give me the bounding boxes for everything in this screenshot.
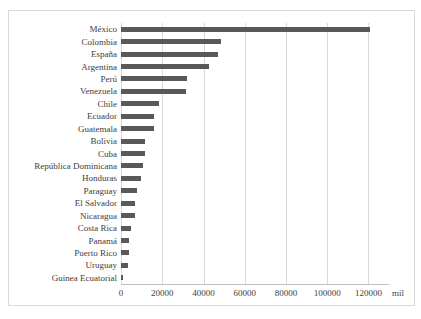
bar — [121, 213, 135, 218]
category-label: España — [9, 48, 117, 60]
axis-unit-label: mil — [392, 288, 404, 298]
category-label: El Salvador — [9, 197, 117, 209]
category-label: Puerto Rico — [9, 247, 117, 259]
bar — [121, 89, 186, 94]
category-label: Panamá — [9, 235, 117, 247]
bar — [121, 188, 137, 193]
category-label: Guinea Ecuatorial — [9, 272, 117, 284]
category-label: Venezuela — [9, 85, 117, 97]
bar — [121, 275, 123, 280]
bar — [121, 52, 218, 57]
category-label: República Dominicana — [9, 160, 117, 172]
bar — [121, 201, 135, 206]
bar — [121, 250, 129, 255]
bar — [121, 76, 187, 81]
category-label: Paraguay — [9, 185, 117, 197]
category-label: Cuba — [9, 148, 117, 160]
bar — [121, 139, 145, 144]
bar — [121, 263, 128, 268]
category-label: Chile — [9, 98, 117, 110]
gridline — [286, 23, 287, 284]
bar — [121, 238, 129, 243]
gridline — [245, 23, 246, 284]
gridline — [162, 23, 163, 284]
bar — [121, 163, 143, 168]
category-label: Uruguay — [9, 259, 117, 271]
gridline — [327, 23, 328, 284]
category-label: México — [9, 23, 117, 35]
category-label: Argentina — [9, 61, 117, 73]
bar — [121, 27, 370, 32]
bar — [121, 114, 154, 119]
bar — [121, 39, 221, 44]
category-label: Costa Rica — [9, 222, 117, 234]
bar — [121, 126, 154, 131]
category-label: Ecuador — [9, 110, 117, 122]
category-label: Bolivia — [9, 135, 117, 147]
bar — [121, 151, 145, 156]
x-tick-label: 120000 — [338, 288, 398, 298]
gridline — [204, 23, 205, 284]
bar — [121, 101, 159, 106]
category-axis: MéxicoColombiaEspañaArgentinaPerúVenezue… — [9, 23, 117, 284]
bar — [121, 64, 209, 69]
chart-frame: MéxicoColombiaEspañaArgentinaPerúVenezue… — [8, 10, 415, 306]
category-label: Honduras — [9, 172, 117, 184]
bar — [121, 226, 131, 231]
category-label: Colombia — [9, 36, 117, 48]
bar — [121, 176, 141, 181]
plot-area — [121, 23, 389, 285]
category-label: Guatemala — [9, 123, 117, 135]
gridline — [368, 23, 369, 284]
category-label: Perú — [9, 73, 117, 85]
category-label: Nicaragua — [9, 210, 117, 222]
